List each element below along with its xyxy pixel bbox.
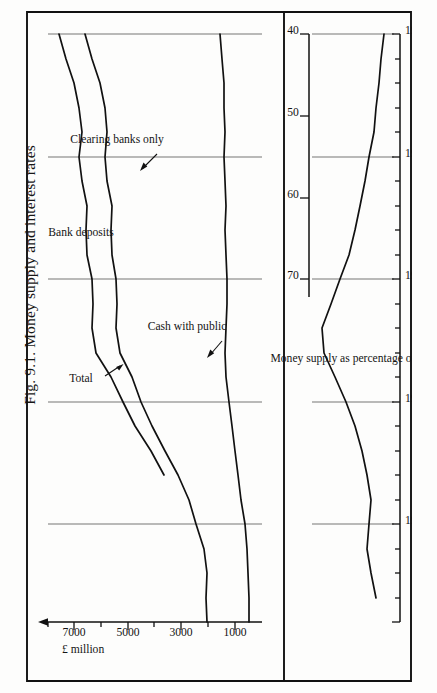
pct-tick-60: 60 xyxy=(287,188,299,201)
year-label-1960: 1960 xyxy=(405,24,412,37)
year-label-1945: 1945 xyxy=(405,392,412,405)
year-label-1940: 1940 xyxy=(405,514,412,527)
panel-bottom-value-tick-labels: 70 60 50 40 xyxy=(287,24,299,282)
value-tick-5000: 5000 xyxy=(116,626,139,639)
panel-bottom-axis-label: Money supply as percentage of GNP xyxy=(271,352,412,365)
panel-bottom-gridlines xyxy=(312,34,394,524)
value-tick-7000: 7000 xyxy=(62,626,85,639)
panel-bottom-value-axis xyxy=(300,34,309,297)
pct-tick-70: 70 xyxy=(287,269,299,282)
pct-tick-40: 40 xyxy=(287,24,299,37)
annotation-total-label: Total xyxy=(69,372,93,385)
year-label-1955: 1955 xyxy=(405,147,412,160)
annotation-clearing-label: Clearing banks only xyxy=(70,133,164,146)
value-tick-1000: 1000 xyxy=(223,626,246,639)
panel-top: 1000 3000 5000 7000 £ million xyxy=(38,34,262,656)
figure-border xyxy=(27,12,411,681)
annotation-bank-deposits-label: Bank deposits xyxy=(48,226,114,239)
year-label-1950: 1950 xyxy=(405,269,412,282)
value-axis-unit-label: £ million xyxy=(62,643,104,656)
value-tick-3000: 3000 xyxy=(169,626,192,639)
annotation-clearing-banks-only: Clearing banks only xyxy=(70,133,164,171)
pct-tick-50: 50 xyxy=(287,106,299,119)
panel-bottom: 70 60 50 40 Money supply as percentage o… xyxy=(271,24,412,598)
figure-canvas: 1000 3000 5000 7000 £ million xyxy=(26,11,412,682)
figure-svg: 1000 3000 5000 7000 £ million xyxy=(26,11,412,682)
time-axis-ticks xyxy=(392,59,400,598)
figure-page: Fig. 9.1. Money supply and interest rate… xyxy=(0,0,437,693)
panel-top-gridlines xyxy=(48,34,262,524)
series-money-supply-pct-gnp xyxy=(322,34,384,598)
time-axis: 1940 1945 1950 1955 1960 xyxy=(392,24,412,622)
annotation-cash-with-public: Cash with public xyxy=(148,320,227,358)
annotation-total: Total xyxy=(69,364,123,385)
annotation-cash-label: Cash with public xyxy=(148,320,227,333)
panel-top-value-tick-labels: 1000 3000 5000 7000 £ million xyxy=(62,626,247,656)
